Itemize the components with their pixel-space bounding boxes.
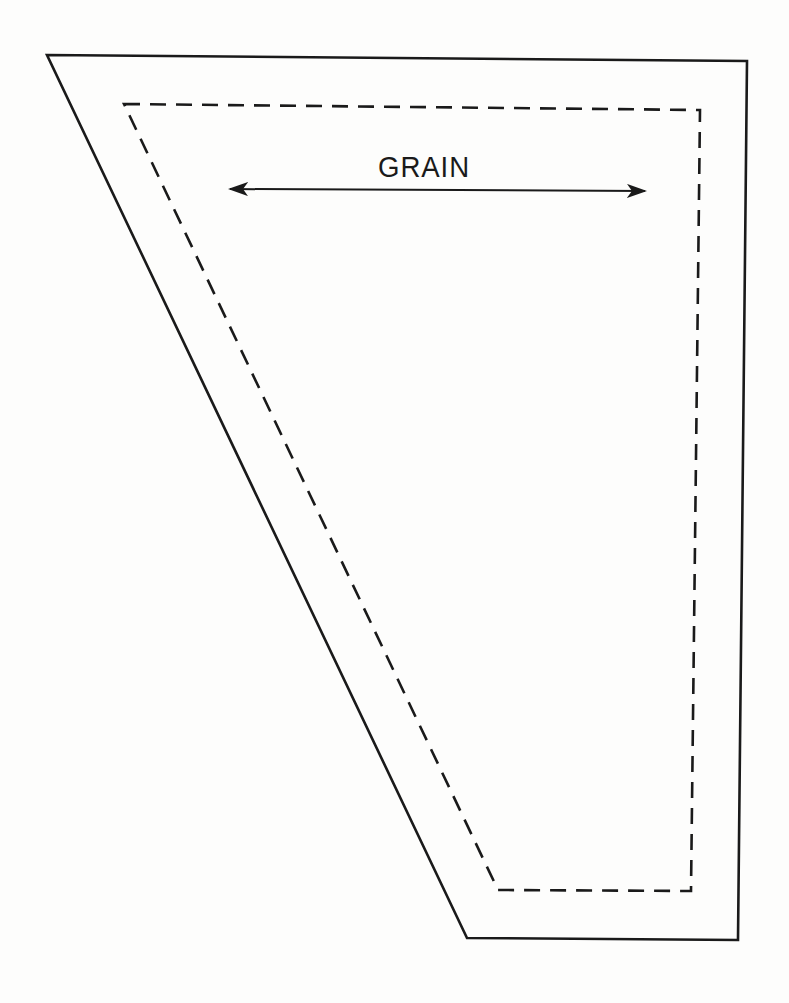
grain-arrow — [230, 189, 645, 191]
inner-seam-line — [124, 104, 700, 891]
grain-label: GRAIN — [378, 150, 470, 184]
outer-cut-line — [47, 55, 747, 940]
pattern-diagram: GRAIN — [0, 0, 789, 1003]
